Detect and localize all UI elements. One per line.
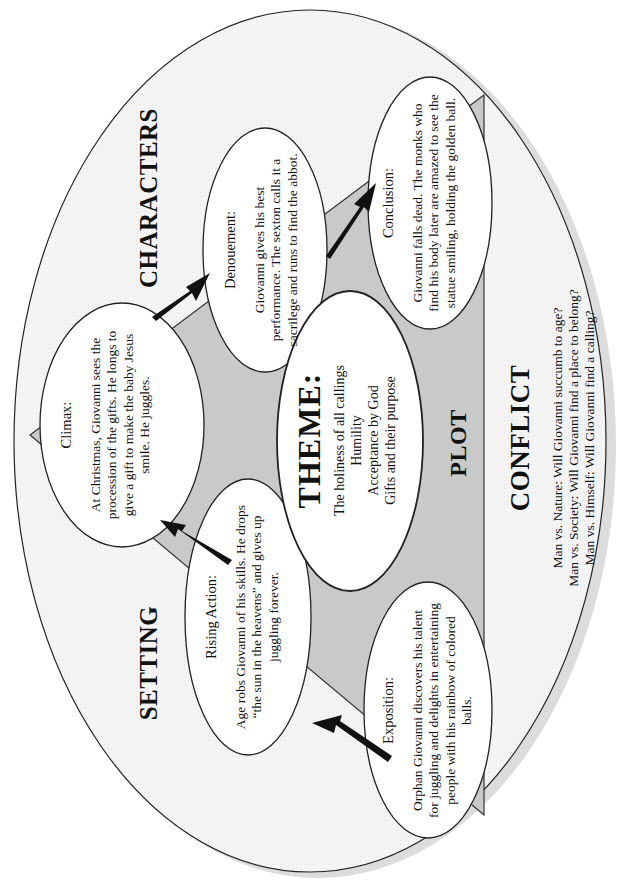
conclusion-title: Conclusion:	[380, 93, 398, 313]
climax-title: Climax:	[58, 327, 76, 523]
story-map-diagram: SETTING CHARACTERS PLOT CONFLICT Exposit…	[0, 0, 633, 893]
conclusion-node: Conclusion: Giovanni falls dead. The mon…	[380, 93, 459, 313]
climax-text: At Christmas, Giovanni sees the processi…	[88, 327, 154, 523]
theme-title: THEME:	[290, 328, 329, 553]
conclusion-text: Giovanni falls dead. The monks who find …	[410, 93, 459, 313]
exposition-title: Exposition:	[380, 603, 398, 818]
conflict-label: CONFLICT	[504, 323, 537, 553]
conflict-line: Man vs. Nature: Will Giovanni succumb to…	[550, 258, 566, 618]
denouement-node: Denouement: Giovanni gives his best perf…	[222, 150, 301, 350]
conflict-line: Man vs. Society: Will Giovanni find a pl…	[566, 258, 582, 618]
exposition-text: Orphan Giovanni discovers his talent for…	[410, 603, 476, 818]
climax-node: Climax: At Christmas, Giovanni sees the …	[58, 327, 154, 523]
conflict-list: Man vs. Nature: Will Giovanni succumb to…	[550, 258, 599, 618]
conflict-line: Man vs. Himself: Will Giovanni find a ca…	[582, 258, 598, 618]
theme-node: THEME: The holiness of all callings Humi…	[290, 328, 399, 553]
theme-line: The holiness of all callings	[331, 328, 348, 553]
theme-line: Gifts and their purpose	[382, 328, 399, 553]
plot-label: PLOT	[444, 383, 473, 503]
theme-line: Humility	[348, 328, 365, 553]
theme-line: Acceptance by God	[365, 328, 382, 553]
denouement-text: Giovanni gives his best performance. The…	[252, 150, 301, 350]
characters-label: CHARACTERS	[134, 83, 165, 313]
setting-label: SETTING	[134, 583, 165, 743]
exposition-node: Exposition: Orphan Giovanni discovers hi…	[380, 603, 476, 818]
denouement-title: Denouement:	[222, 150, 240, 350]
rising-action-node: Rising Action: Age robs Giovanni of his …	[203, 501, 282, 733]
rising-action-title: Rising Action:	[203, 501, 221, 733]
rising-action-text: Age robs Giovanni of his skills. He drop…	[233, 501, 282, 733]
